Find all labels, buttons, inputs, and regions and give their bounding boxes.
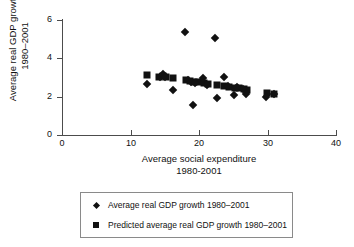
y-axis-title-line-1: Average real GDP growth, [7,0,19,106]
x-axis-title-line-2: 1980-2001 [62,165,336,177]
data-point-actual [169,86,177,94]
x-axis-tick-label: 40 [324,139,348,148]
x-axis-tick-label: 10 [119,139,143,148]
legend-label-actual: Average real GDP growth 1980–2001 [108,200,249,210]
legend-item-predicted: Predicted average real GDP growth 1980–2… [90,218,287,232]
legend-item-actual: Average real GDP growth 1980–2001 [90,198,249,212]
data-point-actual [180,27,188,35]
data-point-actual [211,34,219,42]
x-axis-tick-label: 0 [50,139,74,148]
x-axis-title-line-1: Average social expenditure [62,153,336,165]
data-point-actual [219,72,227,80]
square-marker-icon [90,222,102,228]
data-point-actual [230,91,238,99]
x-axis-tick [336,130,337,136]
data-point-actual [213,93,221,101]
chart-figure: Average real GDP growth, 1980–2001 0246 … [0,0,354,247]
chart-legend: Average real GDP growth 1980–2001 Predic… [80,192,293,238]
y-axis-title: Average real GDP growth, 1980–2001 [7,0,31,106]
y-axis-title-line-2: 1980–2001 [19,0,31,106]
y-axis-tick-label: 2 [38,92,52,101]
data-point-actual [189,101,197,109]
data-point-predicted [143,71,150,78]
data-point-predicted [213,82,220,89]
plot-area [62,20,336,135]
diamond-marker-icon [90,203,102,208]
x-axis-tick-label: 20 [187,139,211,148]
y-axis-tick-label: 6 [38,15,52,24]
x-axis-tick-label: 30 [256,139,280,148]
y-axis-tick-label: 0 [38,130,52,139]
legend-label-predicted: Predicted average real GDP growth 1980–2… [108,220,287,230]
x-axis-title: Average social expenditure 1980-2001 [62,153,336,177]
data-point-predicted [169,75,176,82]
data-point-actual [143,80,151,88]
y-axis-tick-label: 4 [38,53,52,62]
